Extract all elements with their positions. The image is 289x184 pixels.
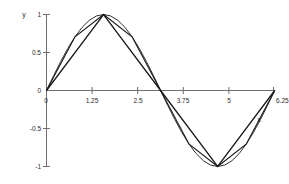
x-tick-label-4: 5: [227, 97, 231, 104]
y-tick-label-0: 0: [37, 87, 41, 94]
y-tick-label-neg1: -1: [35, 163, 41, 170]
y-tick-label-1: 1: [37, 11, 41, 18]
y-tick-label-0point5: 0.5: [32, 49, 41, 56]
x-tick-label-1: 1.25: [86, 97, 99, 104]
chart-canvas: 0 1.25 2.5 3.75 5 6.25 1 0.5 0 -0.5 -1 y…: [0, 0, 289, 184]
x-tick-label-0: 0: [44, 97, 48, 104]
x-tick-label-5: 6.25: [276, 97, 289, 104]
y-axis-title: y: [22, 11, 26, 19]
x-tick-label-2: 2.5: [133, 97, 142, 104]
y-tick-label-neg0point5: -0.5: [30, 125, 42, 132]
x-tick-label-3: 3.75: [177, 97, 190, 104]
sine-approximation-chart: 0 1.25 2.5 3.75 5 6.25 1 0.5 0 -0.5 -1 y…: [0, 0, 289, 184]
